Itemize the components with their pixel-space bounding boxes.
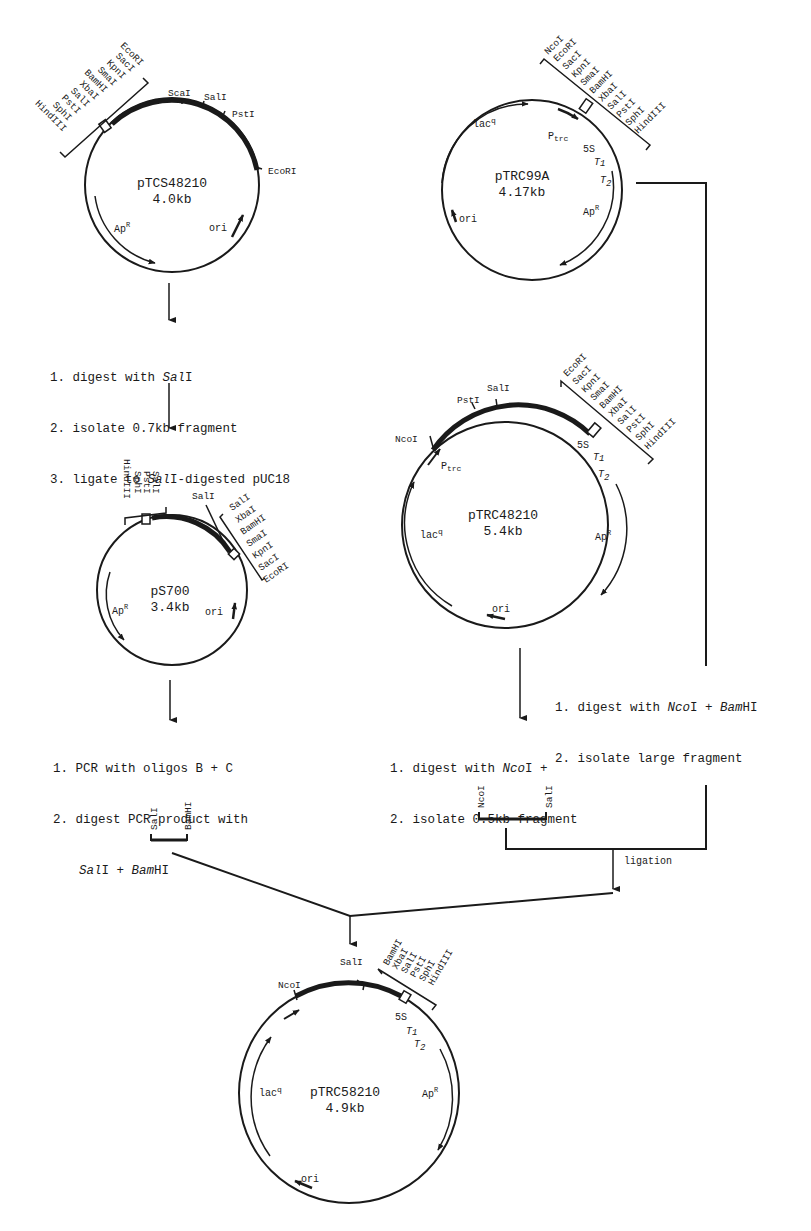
feature-t2: T2	[598, 469, 610, 483]
feature-t1: T1	[406, 1026, 417, 1038]
step-d-instructions: 1. digest with NcoI + BamHI 2. isolate l…	[553, 666, 760, 785]
site-label-ncoi: NcoI	[395, 434, 418, 445]
step-b-instructions: 1. PCR with oligos B + C 2. digest PCR p…	[53, 727, 248, 897]
feature-t2: T2	[600, 175, 612, 189]
feature-apr: ApR	[583, 204, 600, 218]
feature-ori: ori	[459, 214, 477, 225]
feature-5s: 5S	[577, 440, 589, 451]
site-label-psti: PstI	[457, 395, 480, 406]
feature-ori: ori	[209, 223, 227, 234]
feature-ori: ori	[205, 607, 223, 618]
cloning-diagram: ScaI SalI PstI EcoRI EcoRI SacI KpnI Sma…	[0, 0, 811, 1231]
plasmid-name: pTRC48210	[468, 508, 538, 523]
plasmid-ptrc99a: Ptrc 5S T1 T2 ApR lacq ori pTRC99A 4.17k…	[442, 33, 668, 280]
feature-lacq: lacq	[259, 1085, 282, 1099]
feature-lacq: lacq	[473, 116, 496, 130]
site-label-sali: SalI	[340, 957, 363, 968]
feature-5s: 5S	[395, 1012, 407, 1023]
feature-lacq: lacq	[420, 527, 443, 541]
ligation-label: ligation	[624, 856, 672, 867]
feature-t1: T1	[594, 157, 605, 169]
plasmid-size: 4.9kb	[325, 1101, 364, 1116]
feature-apr: ApR	[114, 221, 131, 235]
site-label-sali: SalI	[487, 383, 510, 394]
feature-apr: ApR	[112, 603, 129, 617]
plasmid-ptrc48210: NcoI PstI SalI EcoRI SacI KpnI SmaI BamH…	[395, 351, 678, 628]
site-label-ecori: EcoRI	[268, 166, 297, 177]
feature-ori: ori	[492, 604, 510, 615]
plasmid-size: 5.4kb	[483, 524, 522, 539]
site-label-ncoi: NcoI	[278, 980, 301, 991]
site-label-psti: PstI	[232, 109, 255, 120]
feature-apr: ApR	[595, 529, 612, 543]
plasmid-size: 3.4kb	[150, 600, 189, 615]
feature-ptrc: Ptrc	[548, 131, 569, 143]
feature-ori: ori	[301, 1174, 319, 1185]
feature-t1: T1	[593, 452, 604, 464]
feature-5s: 5S	[583, 144, 595, 155]
site-label-sali: SalI	[204, 92, 227, 103]
plasmid-size: 4.17kb	[499, 185, 546, 200]
feature-t2: T2	[414, 1039, 426, 1053]
plasmid-name: pTRC58210	[310, 1085, 380, 1100]
step-a-instructions: 1. digest with SalI 2. isolate 0.7kb fra…	[50, 336, 290, 506]
feature-ptrc: Ptrc	[441, 461, 462, 473]
plasmid-name: pTRC99A	[495, 169, 550, 184]
plasmid-name: pS700	[150, 584, 189, 599]
site-label-scai: ScaI	[168, 88, 191, 99]
plasmid-ptcs48210: ScaI SalI PstI EcoRI EcoRI SacI KpnI Sma…	[33, 40, 297, 272]
plasmid-name: pTCS48210	[137, 176, 207, 191]
plasmid-ptrc58210: NcoI SalI BamHI XbaI SalI PstI SphI Hind…	[239, 937, 459, 1203]
feature-apr: ApR	[422, 1086, 439, 1100]
plasmid-size: 4.0kb	[152, 192, 191, 207]
